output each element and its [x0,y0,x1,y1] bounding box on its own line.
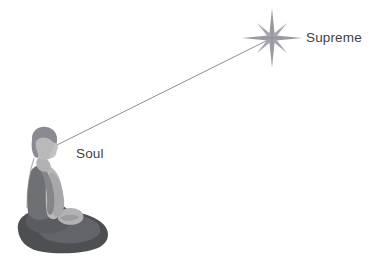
label-supreme: Supreme [306,31,362,45]
sparkle-star-icon [242,8,302,68]
aspiration-line [57,40,268,145]
diagram-canvas: Supreme Soul [0,0,378,270]
label-soul: Soul [76,147,104,161]
